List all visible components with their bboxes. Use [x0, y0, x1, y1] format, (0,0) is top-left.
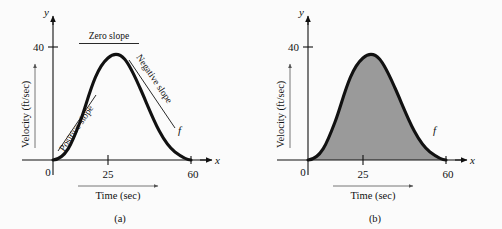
y-axis-title-b: Velocity (ft/sec) [275, 80, 287, 148]
x-axis-variable-a: x [214, 154, 220, 166]
caption-b: (b) [369, 213, 382, 225]
y-tick-40-b: 40 [288, 41, 300, 53]
x-tick-60-b: 60 [443, 168, 455, 180]
caption-a: (a) [114, 213, 126, 225]
y-axis-variable-b: y [298, 6, 304, 18]
annotation-positive-slope: Positive slope [57, 104, 95, 154]
x-axis-title-a: Time (sec) [96, 190, 141, 202]
shaded-area-under-curve [308, 54, 446, 160]
y-tick-40-a: 40 [33, 41, 45, 53]
x-tick-60-a: 60 [188, 168, 200, 180]
y-axis-title-a: Velocity (ft/sec) [20, 80, 32, 148]
y-axis-variable-a: y [43, 6, 49, 18]
x-tick-0-b: 0 [300, 166, 306, 178]
figure-panel-b: y x 40 0 25 60 Velocity (ft/sec) Time (s… [251, 0, 502, 229]
x-tick-25-a: 25 [103, 168, 115, 180]
x-tick-25-b: 25 [358, 168, 370, 180]
velocity-curve [53, 54, 191, 160]
x-axis-variable-b: x [469, 154, 475, 166]
curve-label-f-a: f [178, 124, 183, 136]
annotation-zero-slope: Zero slope [89, 31, 129, 41]
x-tick-0-a: 0 [45, 166, 51, 178]
figure-panel-a: y x 40 0 25 60 Velocity (ft/sec) Time (s… [0, 0, 251, 229]
curve-label-f-b: f [433, 124, 438, 136]
x-axis-title-b: Time (sec) [351, 190, 396, 202]
